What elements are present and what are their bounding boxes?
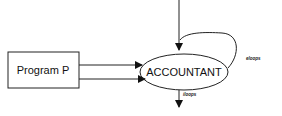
diagram-canvas: Program P ACCOUNTANT eloops iloops <box>0 0 282 116</box>
self-loop-label: eloops <box>246 56 261 61</box>
program-node: Program P <box>8 52 79 88</box>
accountant-node: ACCOUNTANT <box>140 54 228 90</box>
output-label: iloops <box>183 92 197 97</box>
program-label: Program P <box>17 64 70 76</box>
accountant-label: ACCOUNTANT <box>146 66 222 78</box>
self-loop-arrow <box>180 33 236 68</box>
